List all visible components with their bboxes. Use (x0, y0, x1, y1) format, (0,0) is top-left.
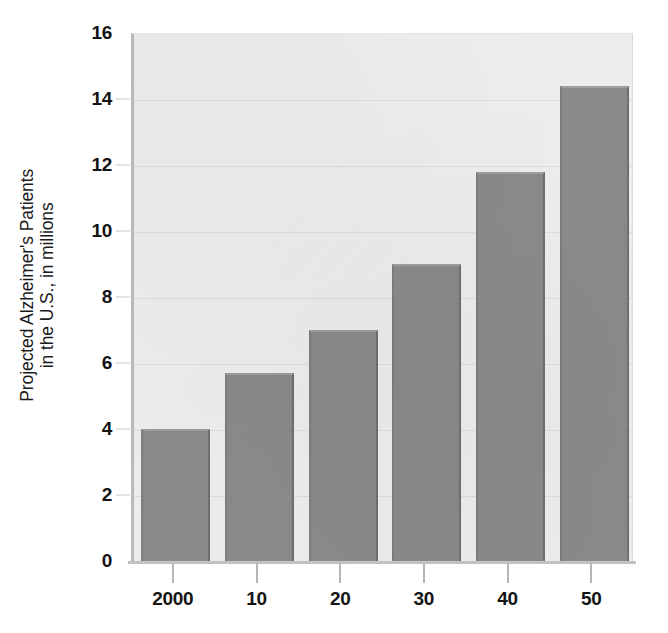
bar-texture (143, 431, 208, 561)
plot-area (131, 33, 633, 561)
y-axis-tick-mark (116, 231, 130, 232)
y-axis-tick-label: 12 (72, 154, 112, 176)
y-axis-tick-label: 8 (72, 286, 112, 308)
y-axis-tick-mark (116, 297, 130, 298)
x-axis-tick-mark (507, 563, 509, 583)
y-axis-tick-label: 16 (72, 22, 112, 44)
bar (560, 86, 629, 561)
x-axis-tick-label: 2000 (152, 588, 193, 610)
bar (392, 264, 461, 561)
x-axis-tick-label: 10 (246, 588, 267, 610)
bar-chart-figure: Projected Alzheimer's Patients in the U.… (0, 0, 668, 633)
y-axis-tick-label: 6 (72, 352, 112, 374)
y-axis-tick-label: 10 (72, 220, 112, 242)
bar (476, 172, 545, 561)
gridline (134, 166, 632, 167)
y-axis-title: Projected Alzheimer's Patients in the U.… (0, 0, 74, 570)
x-axis-tick-mark (172, 563, 174, 583)
y-axis-tick-mark (116, 495, 130, 496)
y-axis-tick-label: 14 (72, 88, 112, 110)
x-axis-tick-label: 20 (330, 588, 351, 610)
y-axis-title-line-2: in the U.S., in millions (37, 169, 57, 402)
bar-texture (311, 332, 376, 561)
bar (309, 330, 378, 561)
y-axis-tick-label: 2 (72, 484, 112, 506)
bar-texture (394, 266, 459, 561)
y-axis-tick-mark (116, 99, 130, 100)
bar-texture (478, 174, 543, 561)
x-axis-tick-mark (590, 563, 592, 583)
bar-texture (562, 88, 627, 561)
x-axis-tick-mark (423, 563, 425, 583)
y-axis-tick-label: 4 (72, 418, 112, 440)
x-axis-tick-mark (256, 563, 258, 583)
gridline (134, 298, 632, 299)
bar (225, 373, 294, 561)
bar (141, 429, 210, 561)
x-axis-tick-label: 30 (414, 588, 435, 610)
x-axis-tick-mark (339, 563, 341, 583)
gridline (134, 100, 632, 101)
x-axis-tick-label: 50 (581, 588, 602, 610)
x-axis-tick-label: 40 (497, 588, 518, 610)
gridline (134, 232, 632, 233)
y-axis-title-line-1: Projected Alzheimer's Patients (17, 169, 37, 402)
y-axis-tick-mark (116, 363, 130, 364)
x-axis-line (128, 561, 636, 564)
y-axis-tick-mark (116, 429, 130, 430)
bar-texture (227, 375, 292, 561)
gridline (134, 364, 632, 365)
y-axis-tick-label: 0 (72, 550, 112, 572)
y-axis-tick-labels: 0246810121416 (72, 0, 112, 633)
y-axis-tick-mark (116, 165, 130, 166)
